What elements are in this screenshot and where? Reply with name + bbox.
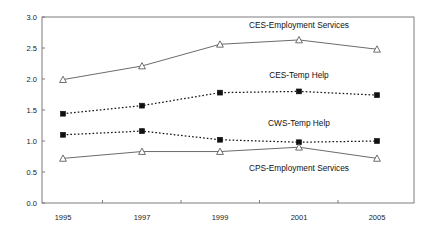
y-tick-label: 1.0 bbox=[27, 137, 37, 146]
y-tick-label: 0.5 bbox=[27, 168, 37, 177]
series-label-1: CES-Temp Help bbox=[269, 70, 329, 80]
y-tick-label: 0.0 bbox=[27, 199, 37, 208]
series-marker-1 bbox=[375, 93, 380, 98]
chart-canvas: 0.00.51.01.52.02.53.01995199719992001200… bbox=[0, 0, 426, 238]
y-tick-label: 3.0 bbox=[27, 13, 37, 22]
series-marker-2 bbox=[61, 132, 66, 137]
series-marker-2 bbox=[140, 129, 145, 134]
series-label-2: CWS-Temp Help bbox=[268, 118, 330, 128]
line-chart: 0.00.51.01.52.02.53.01995199719992001200… bbox=[0, 0, 426, 238]
series-label-0: CES-Employment Services bbox=[249, 20, 349, 30]
x-tick-label: 2005 bbox=[369, 213, 386, 222]
series-marker-1 bbox=[140, 103, 145, 108]
y-tick-label: 1.5 bbox=[27, 106, 37, 115]
series-marker-1 bbox=[297, 89, 302, 94]
plot-border bbox=[42, 17, 414, 203]
x-tick-label: 1999 bbox=[212, 213, 229, 222]
x-tick-label: 2001 bbox=[291, 213, 308, 222]
series-marker-2 bbox=[218, 137, 223, 142]
x-tick-label: 1995 bbox=[55, 213, 72, 222]
series-marker-1 bbox=[218, 90, 223, 95]
y-tick-label: 2.5 bbox=[27, 44, 37, 53]
x-tick-label: 1997 bbox=[134, 213, 151, 222]
y-tick-label: 2.0 bbox=[27, 75, 37, 84]
series-marker-2 bbox=[375, 139, 380, 144]
series-marker-1 bbox=[61, 111, 66, 116]
series-label-3: CPS-Employment Services bbox=[249, 163, 349, 173]
